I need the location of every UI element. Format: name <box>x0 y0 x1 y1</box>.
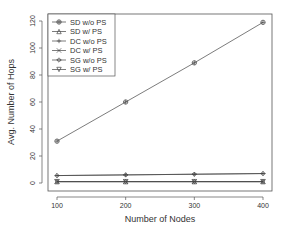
y-axis: 020406080100120 <box>29 15 42 185</box>
y-tick-label: 80 <box>29 71 36 79</box>
y-tick-label: 20 <box>29 152 36 160</box>
y-tick-label: 120 <box>29 15 36 27</box>
y-tick-label: 40 <box>29 125 36 133</box>
legend-label: DC w/o PS <box>70 37 107 46</box>
legend-label: SG w/ PS <box>70 65 103 74</box>
line-chart: 020406080100120 100200300400 SD w/o PSSD… <box>0 0 286 237</box>
series-sg-w-o-ps <box>55 171 265 177</box>
legend: SD w/o PSSD w/ PSDC w/o PSDC w/ PSSG w/o… <box>48 14 115 76</box>
legend-label: SG w/o PS <box>70 56 107 65</box>
y-axis-title: Avg. Number of Hops <box>6 59 16 145</box>
x-tick-label: 100 <box>51 202 63 209</box>
legend-label: SD w/ PS <box>70 27 102 36</box>
x-axis: 100200300400 <box>51 197 269 209</box>
x-tick-label: 300 <box>188 202 200 209</box>
x-tick-label: 400 <box>257 202 269 209</box>
legend-label: SD w/o PS <box>70 18 106 27</box>
x-tick-label: 200 <box>120 202 132 209</box>
series-sg-w-ps <box>55 179 265 183</box>
legend-label: DC w/ PS <box>70 46 103 55</box>
y-tick-label: 100 <box>29 42 36 54</box>
y-tick-label: 0 <box>29 181 36 185</box>
x-axis-title: Number of Nodes <box>125 214 196 224</box>
y-tick-label: 60 <box>29 98 36 106</box>
